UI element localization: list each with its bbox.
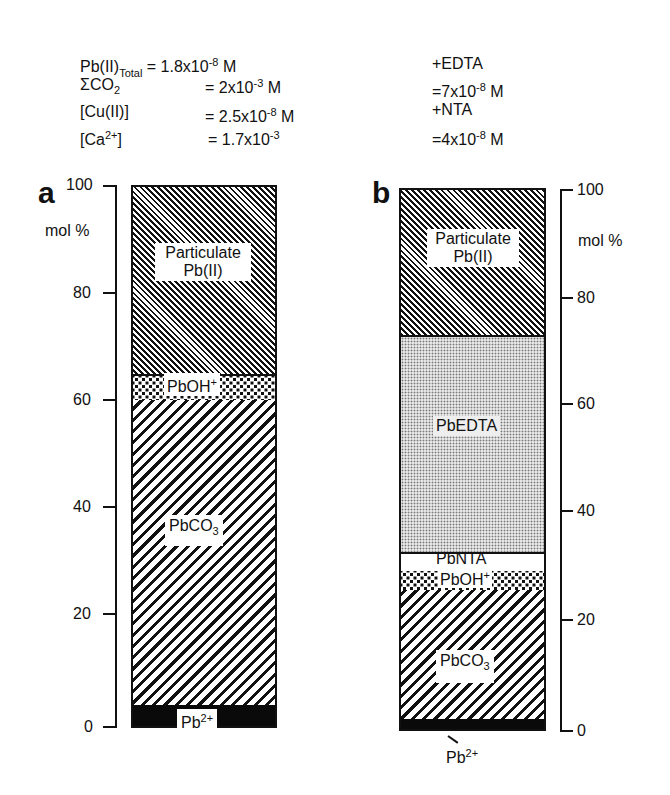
panel-a-tick-label-80: 80 xyxy=(73,284,91,302)
label-line-1: Particulate xyxy=(430,230,516,248)
panel-b-tick-label-100: 100 xyxy=(577,181,604,199)
exponent: -3 xyxy=(270,129,280,141)
panel-b-tick-80 xyxy=(560,297,573,299)
exponent: -3 xyxy=(253,77,263,89)
panel-a-letter: a xyxy=(38,176,55,210)
label-text: PbEDTA xyxy=(436,417,497,434)
condition-nta-label: +NTA xyxy=(432,101,472,119)
unit: M xyxy=(277,108,295,125)
superscript: 2+ xyxy=(105,129,118,141)
condition-ca: [Ca2+] xyxy=(80,126,122,149)
label-line-2: Pb(II) xyxy=(158,262,248,280)
panel-b-tick-label-80: 80 xyxy=(577,289,595,307)
ligand-label: +NTA xyxy=(432,101,472,118)
panel-a-tick-label-20: 20 xyxy=(73,605,91,623)
exponent: -8 xyxy=(209,56,219,68)
label-text: PbCO xyxy=(440,652,484,669)
exponent: -8 xyxy=(476,129,486,141)
panel-b-tick-label-40: 40 xyxy=(577,502,595,520)
panel-b-unit-label: mol % xyxy=(578,232,622,250)
condition-ca-value: = 1.7x10-3 xyxy=(208,126,280,149)
bracket: ] xyxy=(117,131,121,148)
panel-a-tick-80 xyxy=(103,292,116,294)
label-sub: 3 xyxy=(213,525,219,537)
panel-a-tick-60 xyxy=(103,399,116,401)
panel-a-unit-label: mol % xyxy=(45,222,89,240)
condition-edta-label: +EDTA xyxy=(432,55,483,73)
species-label: Pb(II) xyxy=(80,58,119,75)
species-label: [Ca xyxy=(80,131,105,148)
label-text: PbCO xyxy=(169,517,213,534)
panel-a-tick-label-60: 60 xyxy=(73,391,91,409)
species-label: ΣCO xyxy=(80,76,114,93)
panel-b-letter: b xyxy=(372,176,390,210)
subscript: Total xyxy=(119,67,142,79)
subscript: 2 xyxy=(114,84,120,96)
segment-particulate-pb xyxy=(133,187,275,377)
label-text: Pb xyxy=(181,714,201,731)
exponent: -8 xyxy=(476,81,486,93)
label-text: PbOH xyxy=(440,571,484,588)
panel-a-label-particulate: Particulate Pb(II) xyxy=(155,243,251,281)
panel-a-tick-0 xyxy=(103,726,116,728)
value-label: =4x10 xyxy=(432,131,476,148)
panel-b-tick-40 xyxy=(560,510,573,512)
panel-a-tick-label-100: 100 xyxy=(66,176,93,194)
panel-a-label-pb2: Pb2+ xyxy=(177,709,217,732)
panel-a-tick-40 xyxy=(103,506,116,508)
value-label: = 1.8x10 xyxy=(147,58,209,75)
panel-a-y-axis xyxy=(115,185,117,728)
panel-a-tick-100 xyxy=(103,185,116,187)
exponent: -8 xyxy=(267,106,277,118)
label-text: PbOH xyxy=(167,378,211,395)
label-text: Pb xyxy=(446,749,466,766)
panel-a-label-pbco3: PbCO3 xyxy=(165,515,223,546)
panel-b-pb2-leader-line xyxy=(447,735,458,744)
species-label: [Cu(II)] xyxy=(80,103,129,120)
segment-pbedta xyxy=(401,337,544,553)
segment-pb2-free xyxy=(401,719,544,731)
value-label: = 2.5x10 xyxy=(205,108,267,125)
condition-edta-value: =7x10-8 M xyxy=(432,78,504,101)
panel-b-y-axis xyxy=(560,189,562,732)
condition-sum-co2-value: = 2x10-3 M xyxy=(205,74,281,97)
panel-b-label-pbco3: PbCO3 xyxy=(436,650,494,683)
panel-a-tick-20 xyxy=(103,613,116,615)
unit: M xyxy=(486,131,504,148)
label-text: PbNTA xyxy=(436,550,486,567)
label-line-1: Particulate xyxy=(158,244,248,262)
label-sub: 3 xyxy=(484,660,490,672)
label-sup: + xyxy=(211,376,217,388)
panel-b-label-pb2: Pb2+ xyxy=(446,744,478,767)
panel-b-tick-60 xyxy=(560,403,573,405)
condition-nta-value: =4x10-8 M xyxy=(432,126,504,149)
condition-cu-value: = 2.5x10-8 M xyxy=(205,103,294,126)
panel-b-tick-100 xyxy=(560,189,573,191)
panel-b-tick-20 xyxy=(560,619,573,621)
panel-b-tick-label-0: 0 xyxy=(577,722,586,740)
label-sup: 2+ xyxy=(466,747,479,759)
panel-b-tick-label-60: 60 xyxy=(577,395,595,413)
label-sup: 2+ xyxy=(201,712,214,724)
panel-b-label-particulate: Particulate Pb(II) xyxy=(427,229,519,267)
condition-cu: [Cu(II)] xyxy=(80,103,129,121)
label-sup: + xyxy=(484,569,490,581)
panel-b-label-pbnta: PbNTA xyxy=(436,550,486,568)
unit: M xyxy=(263,79,281,96)
panel-b-tick-label-20: 20 xyxy=(577,611,595,629)
panel-a-tick-label-40: 40 xyxy=(73,498,91,516)
value-label: =7x10 xyxy=(432,83,476,100)
panel-b-tick-0 xyxy=(560,730,573,732)
panel-a-tick-label-0: 0 xyxy=(84,718,93,736)
segment-pbco3 xyxy=(133,400,275,706)
value-label: = 1.7x10 xyxy=(208,131,270,148)
label-line-2: Pb(II) xyxy=(430,248,516,266)
panel-b-label-pbedta: PbEDTA xyxy=(433,416,500,436)
value-label: = 2x10 xyxy=(205,79,253,96)
ligand-label: +EDTA xyxy=(432,55,483,72)
unit: M xyxy=(486,83,504,100)
unit: M xyxy=(218,58,236,75)
panel-a-label-pboh: PbOH+ xyxy=(164,373,220,396)
condition-sum-co2: ΣCO2 xyxy=(80,76,120,99)
panel-b-label-pboh: PbOH+ xyxy=(438,567,492,588)
